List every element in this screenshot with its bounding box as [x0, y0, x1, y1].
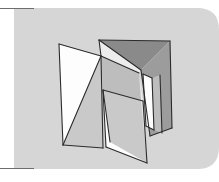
figure-container — [0, 0, 219, 182]
folded-polyhedron-figure — [0, 0, 219, 182]
